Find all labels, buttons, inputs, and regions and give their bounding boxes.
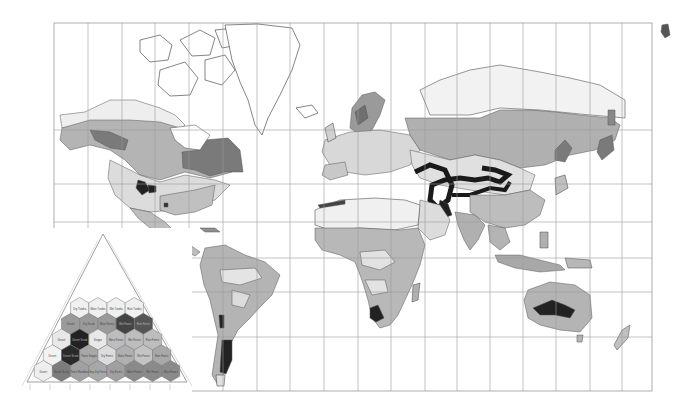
na-texas-dark (164, 203, 168, 207)
margin-mark (661, 24, 670, 38)
legend-hexagon-label: Desert Scrub (63, 354, 79, 358)
legend-hexagon-label: Desert Scrub (72, 338, 88, 342)
legend-hexagon-label: Dry Scrub (83, 322, 95, 326)
legend-hexagon-label: Desert (49, 354, 57, 358)
philippines (540, 232, 548, 248)
map-figure: Dry TundraMoist TundraWet TundraRain Tun… (0, 0, 694, 416)
legend-hexagon-label: Dry Tundra (73, 307, 86, 311)
kamchatka-tip (608, 110, 615, 125)
legend-hexagon-label: Rain Tundra (127, 307, 142, 311)
legend-hexagon-label: Wet Forest (119, 322, 132, 326)
legend-hexagon-label: Rain Forest (146, 338, 160, 342)
legend-hexagon-label: Wet Forest (128, 338, 141, 342)
legend-hexagon-label: Moist Forest (100, 322, 115, 326)
legend-hexagon-label: Steppe (94, 338, 103, 342)
life-zone-triangle-legend: Dry TundraMoist TundraWet TundraRain Tun… (20, 228, 192, 398)
legend-hexagon-label: Thorn Woodland (70, 370, 90, 374)
legend-hexagon-label: Wet Forest (146, 370, 159, 374)
legend-hexagon-label: Desert (67, 322, 75, 326)
legend-hexagon-label: Moist Tundra (90, 307, 106, 311)
legend-hexagon-label: Desert Scrub (54, 370, 70, 374)
sa-south-tip (216, 375, 225, 386)
legend-hexagon-label: Moist Forest (109, 338, 124, 342)
legend-hexagon-label: Moist Forest (127, 370, 142, 374)
legend-hexagon-label: Moist Forest (118, 354, 133, 358)
legend-hexagon-label: Dry Forest (101, 354, 113, 358)
legend-hexagon-label: Wet Tundra (109, 307, 123, 311)
legend-hexagon-label: Rain Forest (155, 354, 169, 358)
legend-hexagon-label: Desert (39, 370, 47, 374)
legend-hexagon-label: Very Dry Forest (89, 370, 107, 374)
legend-hexagon-label: Wet Forest (137, 354, 150, 358)
legend-hexagon-label: Rain Forest (164, 370, 178, 374)
legend-hexagon-label: Dry Forest (110, 370, 122, 374)
legend-hexagon-label: Thorn Steppe (81, 354, 97, 358)
world-map-svg: Dry TundraMoist TundraWet TundraRain Tun… (0, 0, 694, 416)
tasmania (577, 335, 583, 342)
legend-hexagon-label: Desert (58, 338, 66, 342)
legend-hexagon-label: Rain Forest (137, 322, 151, 326)
